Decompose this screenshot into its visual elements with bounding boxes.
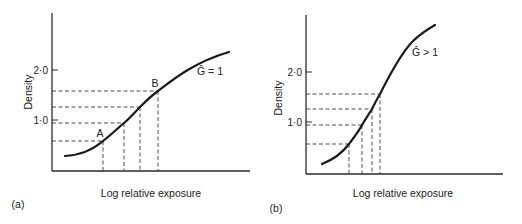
y-axis-label: Density — [22, 74, 34, 110]
y-axis-label: Density — [272, 80, 284, 116]
panel-b: 2·0 1·0 Ĝ > 1 Density Log relative expos… — [270, 15, 503, 214]
point-b-label: B — [151, 77, 158, 89]
y-tick-label-1: 1·0 — [34, 115, 49, 126]
y-tick-label-2: 2·0 — [34, 65, 49, 76]
panel-label-b: (b) — [270, 202, 283, 214]
x-axis-label: Log relative exposure — [101, 187, 202, 199]
gamma-label-b: Ĝ > 1 — [412, 46, 438, 58]
gamma-label-a: Ĝ = 1 — [197, 65, 223, 77]
x-axis-label: Log relative exposure — [353, 187, 454, 199]
point-a-label: A — [96, 127, 103, 139]
figure-canvas: 2·0 1·0 A B Ĝ = 1 Density Log relative e… — [0, 0, 522, 224]
panel-a: 2·0 1·0 A B Ĝ = 1 Density Log relative e… — [12, 13, 250, 210]
panel-label-a: (a) — [12, 198, 25, 210]
y-tick-label-2: 2·0 — [288, 67, 303, 78]
y-tick-label-1: 1·0 — [288, 117, 303, 128]
